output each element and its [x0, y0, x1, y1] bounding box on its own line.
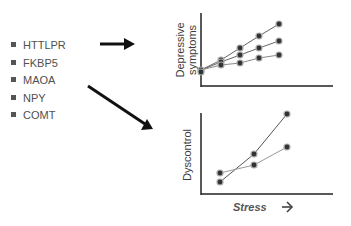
data-markers	[217, 111, 290, 185]
dyscontrol-chart: Dyscontrol Stress	[181, 111, 333, 213]
y-axis-label: Dyscontrol	[181, 129, 193, 181]
series-line	[220, 114, 287, 182]
y-axis-label: Depressive	[174, 22, 186, 77]
arrow-right-icon	[282, 202, 292, 212]
data-markers	[198, 21, 282, 75]
y-axis-label: symptoms	[186, 24, 198, 75]
depressive-symptoms-chart: Depressive symptoms	[174, 13, 333, 87]
diagram-canvas: Depressive symptoms Dyscontrol Stress	[0, 0, 351, 226]
arrow-down-right-icon	[88, 86, 153, 130]
x-axis-label: Stress	[233, 201, 267, 213]
arrow-right-icon	[100, 38, 135, 50]
